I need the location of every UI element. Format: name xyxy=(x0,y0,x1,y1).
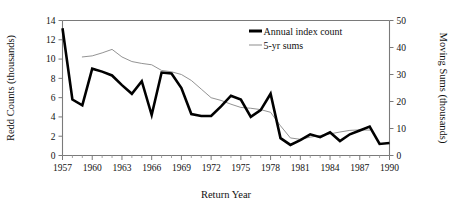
y-axis-left-ticks xyxy=(59,21,63,156)
series-line-5yr-sums xyxy=(82,49,369,139)
x-tick-label-1981: 1981 xyxy=(291,163,310,173)
y2-tick-label-30: 30 xyxy=(397,70,407,80)
y2-tick-label-0: 0 xyxy=(397,151,402,161)
x-axis-ticks xyxy=(63,156,390,161)
redd-counts-line-chart: 1957196019631966196919721975197819811984… xyxy=(0,0,450,206)
y2-tick-label-20: 20 xyxy=(397,97,407,107)
x-tick-label-1978: 1978 xyxy=(261,163,280,173)
y2-tick-label-10: 10 xyxy=(397,124,407,134)
x-tick-label-1960: 1960 xyxy=(83,163,102,173)
legend-label-annual-index-count: Annual index count xyxy=(264,26,343,37)
x-tick-label-1972: 1972 xyxy=(202,163,221,173)
y-axis-left-title: Redd Counts (thousands) xyxy=(5,34,17,141)
x-axis-tick-labels: 1957196019631966196919721975197819811984… xyxy=(53,163,399,173)
y-tick-label-12: 12 xyxy=(46,35,56,45)
y-tick-label-8: 8 xyxy=(51,74,56,84)
y-axis-right-title: Moving Sums (thousands) xyxy=(437,33,449,144)
x-tick-label-1984: 1984 xyxy=(321,163,340,173)
chart-legend: Annual index count 5-yr sums xyxy=(249,26,343,51)
x-axis-title: Return Year xyxy=(201,189,252,200)
data-series-group xyxy=(63,28,390,145)
x-tick-label-1987: 1987 xyxy=(350,163,369,173)
x-tick-label-1963: 1963 xyxy=(112,163,131,173)
y-tick-label-14: 14 xyxy=(46,16,56,26)
chart-container: 1957196019631966196919721975197819811984… xyxy=(0,0,450,206)
y-tick-label-6: 6 xyxy=(51,93,56,103)
y-axis-left-tick-labels: 02468101214 xyxy=(46,16,56,161)
x-tick-label-1957: 1957 xyxy=(53,163,72,173)
y-tick-label-4: 4 xyxy=(51,112,56,122)
y-tick-label-10: 10 xyxy=(46,54,56,64)
axes-group xyxy=(63,21,390,156)
x-tick-label-1969: 1969 xyxy=(172,163,191,173)
y-axis-right-tick-labels: 01020304050 xyxy=(397,16,407,161)
y2-tick-label-40: 40 xyxy=(397,43,407,53)
x-tick-label-1975: 1975 xyxy=(231,163,250,173)
legend-label-5yr-sums: 5-yr sums xyxy=(264,40,304,51)
y-tick-label-2: 2 xyxy=(51,132,56,142)
x-tick-label-1990: 1990 xyxy=(380,163,399,173)
series-line-annual-index-count xyxy=(63,28,390,145)
y-axis-right-ticks xyxy=(390,21,394,156)
x-tick-label-1966: 1966 xyxy=(142,163,161,173)
y2-tick-label-50: 50 xyxy=(397,16,407,26)
y-tick-label-0: 0 xyxy=(51,151,56,161)
